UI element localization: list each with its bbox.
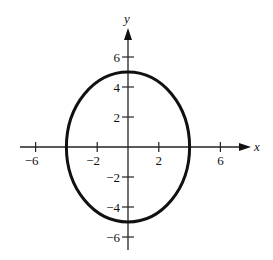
y-tick-label: −6 (106, 230, 120, 245)
x-tick-label: 6 (217, 153, 224, 168)
x-tick-label: 2 (156, 153, 163, 168)
x-axis-arrow-icon (239, 143, 251, 151)
y-axis-label: y (122, 11, 130, 26)
y-tick-label: 2 (114, 110, 121, 125)
y-axis-arrow-icon (124, 28, 132, 40)
x-axis-label: x (253, 139, 260, 154)
y-tick-label: 6 (114, 50, 121, 65)
x-ticks: −6−226 (25, 142, 224, 168)
x-tick-label: −2 (86, 153, 100, 168)
y-tick-label: −4 (106, 200, 120, 215)
ellipse-plot: x y −6−226 642−2−4−6 (0, 0, 273, 260)
y-tick-label: −2 (106, 170, 120, 185)
x-tick-label: −6 (25, 153, 39, 168)
x-axis: x (20, 139, 260, 154)
y-axis: y (122, 11, 132, 250)
y-tick-label: 4 (114, 80, 121, 95)
